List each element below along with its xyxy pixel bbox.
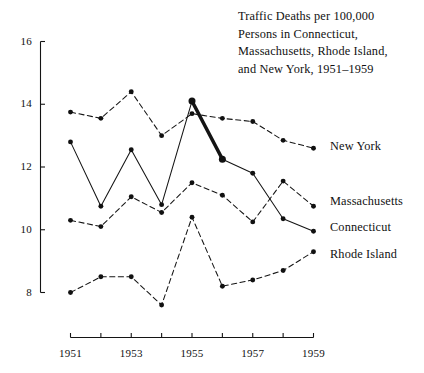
data-point [129,194,134,199]
x-tick-label: 1959 [292,347,336,359]
y-tick-label: 12 [8,160,32,172]
data-point [190,111,195,116]
series-line [71,217,314,305]
data-point [98,204,103,209]
data-point [311,229,316,234]
data-point [159,202,164,207]
series-rhode-island [68,215,316,308]
data-point [98,116,103,121]
data-point [159,303,164,308]
data-point [311,204,316,209]
data-point [250,278,255,283]
y-tick-label: 14 [8,97,32,109]
data-point [129,89,134,94]
data-point [98,224,103,229]
series-label-connecticut: Connecticut [330,220,391,235]
data-point [159,133,164,138]
data-point [250,219,255,224]
data-point [281,179,286,184]
data-point [281,268,286,273]
data-point [220,284,225,289]
series-layer [68,89,316,307]
data-point [68,110,73,115]
series-line [71,181,314,226]
data-point [190,180,195,185]
data-point [220,193,225,198]
x-tick-label: 1951 [49,347,93,359]
y-tick-label: 16 [8,35,32,47]
series-connecticut [68,98,316,234]
data-point [250,171,255,176]
data-point [220,116,225,121]
highlight-segment [192,101,222,159]
series-label-massachusetts: Massachusetts [330,194,403,209]
data-point [311,249,316,254]
x-tick-label: 1957 [231,347,275,359]
series-label-rhode-island: Rhode Island [330,247,397,262]
y-axis [41,42,46,293]
series-label-new-york: New York [330,139,381,154]
series-line [71,101,314,231]
x-tick-label: 1953 [109,347,153,359]
data-point [159,210,164,215]
data-point [281,138,286,143]
plot-area [0,0,424,373]
data-point [219,156,226,163]
data-point [311,146,316,151]
data-point [68,139,73,144]
traffic-deaths-chart: Traffic Deaths per 100,000 Persons in Co… [0,0,424,373]
data-point [189,98,196,105]
x-axis [71,333,314,338]
x-tick-label: 1955 [170,347,214,359]
data-point [68,290,73,295]
series-massachusetts [68,179,316,229]
data-point [281,216,286,221]
data-point [98,274,103,279]
data-point [129,147,134,152]
data-point [129,274,134,279]
data-point [250,119,255,124]
data-point [68,218,73,223]
data-point [190,215,195,220]
y-tick-label: 10 [8,223,32,235]
y-tick-label: 8 [8,286,32,298]
